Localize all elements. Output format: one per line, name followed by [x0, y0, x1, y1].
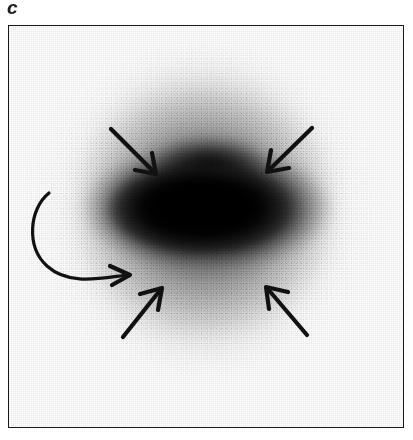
scan-image — [9, 26, 403, 427]
image-frame — [8, 25, 404, 428]
panel-label: c — [7, 0, 18, 18]
figure-panel: c — [0, 0, 413, 440]
core-peak-layer — [129, 171, 279, 241]
